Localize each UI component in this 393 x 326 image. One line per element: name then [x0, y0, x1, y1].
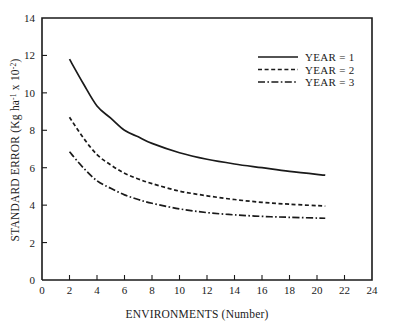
y-tick-label: 2	[30, 237, 36, 249]
legend-label-3: YEAR = 3	[305, 76, 355, 88]
x-tick-label: 14	[229, 284, 241, 296]
y-axis-title: STANDARD ERROR (Kg ha-1 x 10-2)	[9, 59, 22, 242]
x-tick-label: 20	[312, 284, 324, 296]
x-tick-label: 16	[257, 284, 269, 296]
x-tick-label: 24	[367, 284, 379, 296]
x-tick-label: 8	[149, 284, 155, 296]
y-axis-title-end: )	[9, 59, 22, 63]
y-axis-title-main: STANDARD ERROR (Kg ha	[9, 100, 22, 242]
standard-error-line-chart: 024681012141618202224 02468101214 YEAR =…	[0, 0, 393, 326]
y-tick-label: 12	[24, 49, 35, 61]
svg-text:STANDARD ERROR (Kg ha-1 x 10-2: STANDARD ERROR (Kg ha-1 x 10-2)	[9, 59, 22, 242]
x-tick-label: 2	[67, 284, 73, 296]
chart-background	[0, 0, 393, 326]
x-tick-label: 10	[174, 284, 186, 296]
x-tick-label: 22	[339, 284, 350, 296]
y-tick-label: 6	[30, 162, 36, 174]
x-tick-label: 12	[202, 284, 213, 296]
x-tick-label: 18	[284, 284, 296, 296]
y-axis-title-middle: x 10	[9, 69, 21, 93]
x-tick-label: 4	[94, 284, 100, 296]
x-tick-label: 6	[122, 284, 128, 296]
x-axis-title: ENVIRONMENTS (Number)	[125, 308, 268, 321]
chart-container: 024681012141618202224 02468101214 YEAR =…	[0, 0, 393, 326]
legend-label-1: YEAR = 1	[305, 51, 355, 63]
y-tick-label: 0	[30, 274, 36, 286]
y-tick-label: 10	[24, 87, 36, 99]
y-tick-label: 4	[30, 199, 36, 211]
x-tick-label: 0	[39, 284, 45, 296]
chart-legend: YEAR = 1YEAR = 2YEAR = 3	[258, 51, 355, 88]
legend-label-2: YEAR = 2	[305, 64, 355, 76]
y-tick-label: 8	[30, 124, 36, 136]
y-tick-label: 14	[24, 12, 36, 24]
